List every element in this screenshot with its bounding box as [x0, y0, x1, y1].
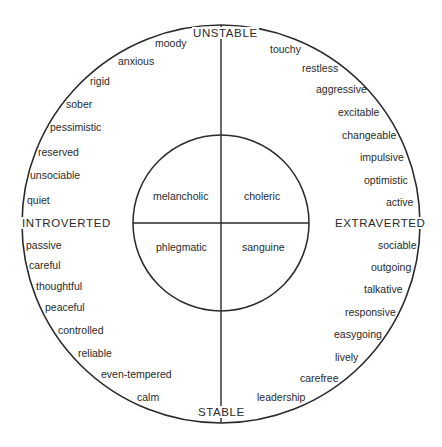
- trait-talkative: talkative: [364, 283, 403, 295]
- trait-careful: careful: [29, 259, 61, 271]
- trait-moody: moody: [155, 37, 187, 49]
- trait-peaceful: peaceful: [45, 301, 85, 313]
- personality-diagram: UNSTABLE STABLE INTROVERTED EXTRAVERTED …: [0, 0, 442, 447]
- trait-quiet: quiet: [27, 194, 50, 206]
- trait-even-tempered: even-tempered: [101, 368, 172, 380]
- temperament-melancholic: melancholic: [153, 190, 208, 202]
- trait-passive: passive: [26, 239, 62, 251]
- trait-thoughtful: thoughtful: [36, 280, 82, 292]
- trait-outgoing: outgoing: [371, 261, 411, 273]
- trait-pessimistic: pessimistic: [50, 121, 101, 133]
- trait-calm: calm: [137, 391, 159, 403]
- trait-aggressive: aggressive: [316, 83, 367, 95]
- trait-impulsive: impulsive: [360, 151, 404, 163]
- trait-easygoing: easygoing: [334, 328, 382, 340]
- trait-unsociable: unsociable: [30, 169, 80, 181]
- trait-touchy: touchy: [270, 43, 301, 55]
- trait-optimistic: optimistic: [364, 174, 408, 186]
- trait-rigid: rigid: [90, 75, 110, 87]
- axis-label-introverted: INTROVERTED: [21, 217, 112, 229]
- trait-reliable: reliable: [78, 347, 112, 359]
- trait-excitable: excitable: [338, 106, 379, 118]
- temperament-phlegmatic: phlegmatic: [156, 241, 207, 253]
- trait-leadership: leadership: [257, 391, 305, 403]
- trait-responsive: responsive: [345, 306, 396, 318]
- axis-label-extraverted: EXTRAVERTED: [334, 217, 427, 229]
- trait-sober: sober: [66, 98, 92, 110]
- trait-sociable: sociable: [378, 239, 417, 251]
- trait-changeable: changeable: [342, 129, 396, 141]
- trait-reserved: reserved: [38, 146, 79, 158]
- axis-label-stable: STABLE: [197, 406, 246, 418]
- trait-carefree: carefree: [300, 372, 339, 384]
- temperament-sanguine: sanguine: [242, 241, 285, 253]
- trait-anxious: anxious: [118, 55, 154, 67]
- trait-controlled: controlled: [58, 324, 104, 336]
- temperament-choleric: choleric: [244, 190, 280, 202]
- trait-lively: lively: [335, 351, 358, 363]
- trait-active: active: [386, 196, 413, 208]
- axis-label-unstable: UNSTABLE: [192, 27, 259, 39]
- trait-restless: restless: [302, 62, 338, 74]
